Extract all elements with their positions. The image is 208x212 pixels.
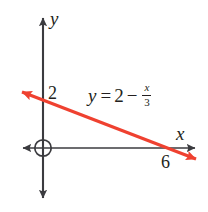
x-intercept-label: 6 — [161, 153, 170, 171]
fraction-denominator: 3 — [143, 97, 151, 109]
equation-constant: 2 — [114, 86, 124, 105]
equation-minus-sign: − — [124, 86, 141, 105]
y-intercept-label: 2 — [48, 84, 57, 102]
fraction-numerator: x — [143, 82, 150, 94]
graph-figure: y x 2 6 y = 2 − x 3 — [0, 0, 208, 212]
equation-equals-sign: = — [97, 86, 114, 105]
equation-lhs: y — [88, 86, 97, 105]
equation-fraction: x 3 — [142, 82, 151, 108]
x-axis-label: x — [176, 124, 184, 143]
equation-annotation: y = 2 − x 3 — [88, 82, 151, 108]
y-axis-label: y — [50, 9, 58, 28]
